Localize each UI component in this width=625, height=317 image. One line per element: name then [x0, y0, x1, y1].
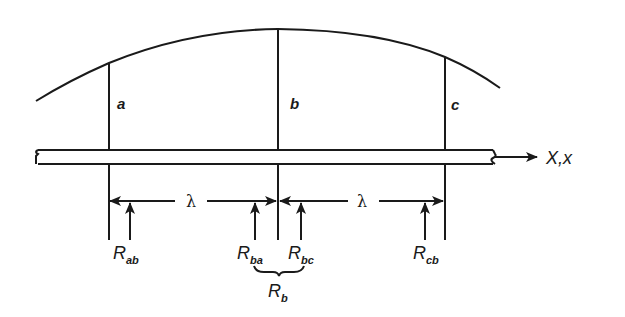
reaction-label-ba: Rba: [237, 243, 263, 266]
point-label-b: b: [290, 95, 299, 112]
axis-label: X,x: [545, 148, 573, 168]
combined-reaction-label: Rb: [268, 281, 288, 304]
deflection-curve: [36, 29, 500, 101]
point-label-c: c: [451, 96, 460, 113]
reaction-label-cb: Rcb: [413, 243, 439, 266]
beam-diagram: X,x a b c λ λ Rab Rba Rbc Rcb Rb: [0, 0, 625, 317]
spacing-label-bc: λ: [357, 192, 367, 211]
combining-brace: [254, 266, 304, 276]
dimension-ab: λ: [110, 192, 276, 211]
beam: [36, 150, 496, 164]
reaction-label-ab: Rab: [113, 243, 139, 266]
reaction-label-bc: Rbc: [288, 243, 314, 266]
spacing-label-ab: λ: [186, 192, 196, 211]
point-label-a: a: [117, 95, 125, 112]
dimension-bc: λ: [280, 192, 443, 211]
